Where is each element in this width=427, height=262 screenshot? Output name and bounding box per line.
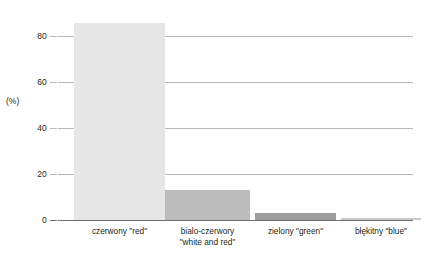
x-tick-label-zielony-green: zielony "green"	[255, 226, 336, 237]
bar-czerwony-red	[74, 23, 165, 220]
tick-mark-20	[50, 174, 57, 175]
y-tick-label-20: 20	[37, 169, 47, 179]
y-tick-label-0: 0	[42, 215, 47, 225]
plot-area: 80 60 40 20 0	[58, 14, 413, 220]
x-tick-label-bialo-czerwory: bialo-czerwory "white and red"	[165, 226, 250, 248]
y-tick-label-40: 40	[37, 123, 47, 133]
bar-bialo-czerwory	[165, 190, 250, 220]
x-tick-label-czerwony-red: czerwony "red"	[74, 226, 165, 237]
gridline-baseline-0: 0	[58, 220, 413, 221]
y-tick-label-60: 60	[37, 77, 47, 87]
tick-mark-60	[50, 82, 57, 83]
bar-zielony-green	[255, 213, 336, 220]
y-axis-title: (%)	[6, 96, 19, 106]
tick-mark-0	[50, 220, 57, 221]
bar-blekitny-blue	[341, 218, 421, 220]
y-tick-label-80: 80	[37, 31, 47, 41]
bar-chart: (%) 80 60 40 20 0 czerwony "red" bial	[0, 0, 427, 262]
tick-mark-40	[50, 128, 57, 129]
tick-mark-80	[50, 36, 57, 37]
x-tick-label-blekitny-blue: błękitny "blue"	[341, 226, 421, 237]
